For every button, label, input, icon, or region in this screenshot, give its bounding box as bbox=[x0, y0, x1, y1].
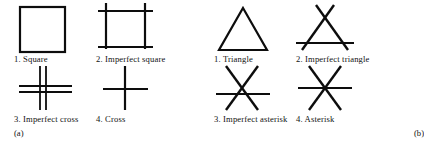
figure-item-imperfect-asterisk: 3. Imperfect asterisk bbox=[214, 64, 309, 134]
figure-item-cross: 4. Cross bbox=[96, 64, 191, 134]
figure-item-caption: 4. Asterisk bbox=[296, 114, 406, 125]
square-shape-icon bbox=[14, 4, 109, 56]
panel-label-a: (a) bbox=[14, 128, 24, 139]
figure-item-imperfect-cross: 3. Imperfect cross bbox=[14, 64, 109, 134]
imperfect-cross-shape-icon bbox=[14, 64, 109, 116]
panel-label-b: (b) bbox=[414, 128, 424, 139]
panel-a: 1. Square 2. Imperfect square bbox=[0, 0, 200, 152]
imperfect-asterisk-shape-icon bbox=[214, 64, 309, 116]
imperfect-triangle-shape-icon bbox=[296, 4, 391, 56]
panel-b: 1. Triangle 2. Imperfect triangle bbox=[200, 0, 400, 152]
cross-shape-icon bbox=[96, 64, 191, 116]
imperfect-square-shape-icon bbox=[96, 4, 191, 56]
figure-item-caption: 4. Cross bbox=[96, 114, 206, 125]
figure-item-asterisk: 4. Asterisk bbox=[296, 64, 391, 134]
triangle-shape-icon bbox=[214, 4, 309, 56]
asterisk-shape-icon bbox=[296, 64, 391, 116]
